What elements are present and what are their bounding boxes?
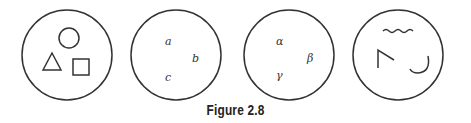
panel-2-frame xyxy=(131,10,221,100)
wavy-line-mark xyxy=(383,30,413,33)
label-alpha: α xyxy=(276,35,284,48)
label-a: a xyxy=(165,35,172,48)
label-b: b xyxy=(192,52,199,65)
label-gamma: γ xyxy=(276,69,283,82)
triangle-shape xyxy=(43,53,61,70)
square-shape xyxy=(73,59,89,75)
label-beta: β xyxy=(306,52,313,65)
figure-caption: Figure 2.8 xyxy=(35,102,435,118)
panel-1-frame xyxy=(22,10,112,100)
panel-3-frame xyxy=(244,10,334,100)
panel-4-frame xyxy=(353,10,443,100)
small-circle-shape xyxy=(59,28,79,48)
label-c: c xyxy=(165,71,171,84)
hook-mark xyxy=(410,56,429,73)
angle-mark xyxy=(378,50,394,68)
